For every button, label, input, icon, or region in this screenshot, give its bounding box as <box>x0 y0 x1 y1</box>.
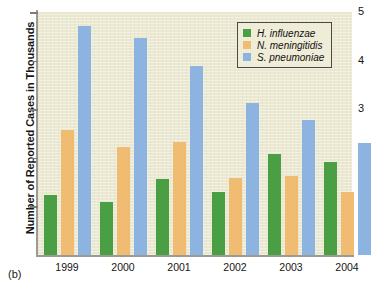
bar <box>229 178 242 255</box>
bar <box>78 26 91 255</box>
legend-item: N. meningitidis <box>243 39 324 51</box>
y-tick-mark <box>30 109 38 111</box>
bar <box>341 192 354 255</box>
x-tick-label: 2000 <box>93 261 153 273</box>
bar <box>358 143 371 255</box>
legend-label: N. meningitidis <box>257 40 323 51</box>
x-tick-label: 2004 <box>317 261 375 273</box>
bar <box>134 38 147 255</box>
legend-item: H. influenzae <box>243 27 324 39</box>
bar <box>44 195 57 255</box>
legend-label: H. influenzae <box>257 28 315 39</box>
bar <box>156 179 169 255</box>
bar <box>302 120 315 255</box>
bar <box>173 142 186 255</box>
y-tick-mark <box>30 206 38 208</box>
y-axis-title: Number of Reported Cases in Thousands <box>24 8 36 248</box>
bar <box>246 103 259 255</box>
y-tick-label: 5 <box>338 5 364 17</box>
bar <box>285 176 298 255</box>
bar <box>117 147 130 255</box>
x-tick-label: 2003 <box>261 261 321 273</box>
bar <box>268 154 281 255</box>
legend-item: S. pneumoniae <box>243 51 324 63</box>
y-tick-mark <box>30 61 38 63</box>
x-axis-line <box>36 255 354 257</box>
bar <box>212 192 225 255</box>
y-tick-mark <box>30 158 38 160</box>
x-tick-label: 1999 <box>37 261 97 273</box>
bar <box>61 130 74 255</box>
x-tick-label: 2002 <box>205 261 265 273</box>
bar <box>190 66 203 255</box>
bar <box>100 202 113 255</box>
legend: H. influenzaeN. meningitidisS. pneumonia… <box>237 22 332 68</box>
legend-label: S. pneumoniae <box>257 52 324 63</box>
legend-color-swatch <box>243 53 251 61</box>
legend-color-swatch <box>243 41 251 49</box>
bar <box>324 162 337 255</box>
y-tick-mark <box>30 12 38 14</box>
y-tick-label: 3 <box>338 102 364 114</box>
legend-color-swatch <box>243 29 251 37</box>
y-axis-line <box>36 10 38 257</box>
x-tick-label: 2001 <box>149 261 209 273</box>
y-tick-label: 4 <box>338 54 364 66</box>
figure-caption: (b) <box>8 268 21 280</box>
